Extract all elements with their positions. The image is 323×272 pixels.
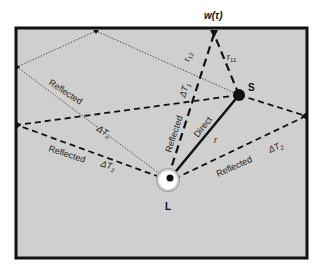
source-label: S <box>248 82 255 93</box>
r11-label-sub: 11 <box>230 57 237 63</box>
listener-node[interactable] <box>167 175 174 182</box>
w-tau-label: w(τ) <box>204 10 223 21</box>
room-boundary <box>16 28 307 258</box>
diagram-canvas: w(τ) S L r11 r12 ΔT1 Reflected Direct r … <box>0 0 323 272</box>
listener-label: L <box>165 201 171 212</box>
source-node[interactable] <box>233 89 245 101</box>
